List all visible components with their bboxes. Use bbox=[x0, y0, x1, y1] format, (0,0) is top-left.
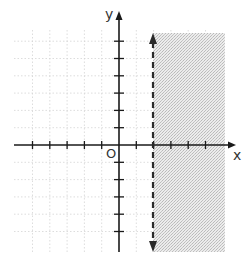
coordinate-plane: x y O bbox=[0, 0, 242, 263]
y-axis-label: y bbox=[105, 6, 113, 22]
y-axis-arrow-icon bbox=[116, 11, 123, 20]
shaded-region bbox=[153, 33, 225, 252]
x-axis-label: x bbox=[233, 147, 241, 163]
y-axis: y bbox=[105, 6, 124, 252]
origin-label: O bbox=[106, 146, 116, 161]
